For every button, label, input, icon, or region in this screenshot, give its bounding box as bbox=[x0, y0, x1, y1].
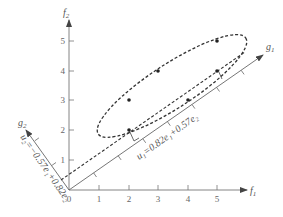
pca-diagram: 0 1 2 3 4 5 1 2 3 4 5 f1 f2 g1 u₁=0.82e₁… bbox=[0, 0, 283, 217]
data-point bbox=[215, 69, 219, 73]
data-point bbox=[156, 69, 160, 73]
f1-label: f1 bbox=[250, 185, 256, 198]
x-tick-labels: 0 1 2 3 4 5 bbox=[67, 194, 220, 204]
svg-text:5: 5 bbox=[61, 36, 66, 46]
y-tick-labels: 1 2 3 4 5 bbox=[61, 36, 66, 165]
f2-label: f2 bbox=[63, 7, 70, 20]
svg-text:4: 4 bbox=[61, 66, 66, 76]
x-ticks bbox=[99, 185, 217, 190]
g1-ticks bbox=[94, 70, 245, 177]
data-point bbox=[215, 39, 219, 43]
y-ticks bbox=[69, 41, 74, 160]
data-point bbox=[127, 98, 131, 102]
u2-equation: u₂=−0.57e₁+0.82e₂ bbox=[18, 132, 73, 204]
svg-text:1: 1 bbox=[97, 194, 102, 204]
g1-label: g1 bbox=[266, 41, 275, 54]
svg-text:2: 2 bbox=[61, 125, 66, 135]
data-point bbox=[186, 98, 190, 102]
svg-text:4: 4 bbox=[186, 194, 191, 204]
data-point bbox=[127, 128, 131, 132]
svg-text:2: 2 bbox=[127, 194, 132, 204]
u1-equation: u₁=0.82e₁+0.57e₂ bbox=[134, 111, 200, 162]
g1-axis bbox=[69, 55, 263, 190]
g2-label: g2 bbox=[18, 117, 27, 130]
svg-text:5: 5 bbox=[215, 194, 220, 204]
svg-text:3: 3 bbox=[61, 95, 66, 105]
svg-text:1: 1 bbox=[61, 155, 66, 165]
svg-text:3: 3 bbox=[156, 194, 161, 204]
